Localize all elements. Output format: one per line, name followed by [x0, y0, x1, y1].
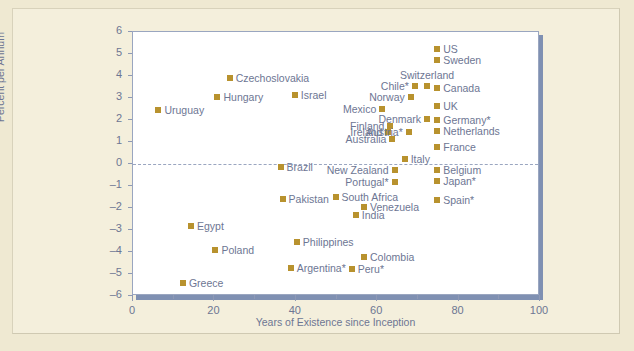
data-point-marker: [434, 144, 440, 150]
x-tick-mark: [295, 295, 296, 301]
x-tick-mark: [173, 295, 174, 299]
data-point-label: Mexico: [343, 104, 376, 115]
y-tick-mark: [128, 53, 132, 54]
y-tick-mark: [128, 273, 132, 274]
y-tick-label: –3: [96, 222, 122, 234]
y-tick-mark: [128, 229, 132, 230]
data-point-marker: [402, 156, 408, 162]
y-tick-mark: [128, 185, 132, 186]
x-tick-label: 0: [112, 304, 152, 316]
x-tick-mark: [539, 295, 540, 301]
x-tick-mark: [213, 295, 214, 301]
y-tick-mark: [128, 97, 132, 98]
data-point-label: Greece: [189, 277, 223, 288]
data-point-label: Philippines: [303, 237, 354, 248]
x-tick-label: 60: [356, 304, 396, 316]
data-point-label: Italy: [411, 153, 430, 164]
data-point-label: India: [362, 209, 385, 220]
data-point-label: Czechoslovakia: [236, 73, 310, 84]
x-axis-label: Years of Existence since Inception: [132, 316, 539, 328]
data-point-label: Denmark: [378, 114, 421, 125]
y-tick-label: 6: [96, 24, 122, 36]
data-point-marker: [406, 129, 412, 135]
y-tick-label: –2: [96, 200, 122, 212]
y-tick-label: 0: [96, 156, 122, 168]
y-tick-mark: [128, 251, 132, 252]
data-point-marker: [434, 85, 440, 91]
data-point-marker: [227, 75, 233, 81]
data-point-marker: [434, 197, 440, 203]
data-point-label: Portugal*: [345, 176, 388, 187]
data-point-label: Hungary: [223, 92, 263, 103]
y-tick-label: –4: [96, 244, 122, 256]
data-point-label: New Zealand: [327, 164, 389, 175]
data-point-label: Brazil: [287, 162, 313, 173]
data-point-label: Israel: [301, 89, 327, 100]
y-tick-mark: [128, 75, 132, 76]
data-point-marker: [294, 239, 300, 245]
x-tick-label: 100: [519, 304, 559, 316]
data-point-marker: [434, 167, 440, 173]
data-point-label: Poland: [221, 244, 254, 255]
y-axis-label: Percent per Annum: [0, 32, 6, 122]
data-point-marker: [434, 103, 440, 109]
data-point-marker: [408, 94, 414, 100]
data-point-marker: [288, 265, 294, 271]
data-point-marker: [278, 164, 284, 170]
data-point-label: Canada: [443, 83, 480, 94]
y-tick-label: –1: [96, 178, 122, 190]
data-point-marker: [333, 194, 339, 200]
data-point-label: Sweden: [443, 54, 481, 65]
data-point-marker: [180, 280, 186, 286]
x-tick-mark: [376, 295, 377, 301]
data-point-marker: [280, 196, 286, 202]
data-point-marker: [353, 212, 359, 218]
data-point-marker: [292, 92, 298, 98]
data-point-marker: [434, 46, 440, 52]
y-tick-label: 1: [96, 134, 122, 146]
x-tick-mark: [498, 295, 499, 299]
data-point-marker: [434, 178, 440, 184]
y-tick-label: –5: [96, 266, 122, 278]
data-point-label: UK: [443, 100, 458, 111]
data-point-marker: [379, 106, 385, 112]
data-point-label: Uruguay: [164, 105, 204, 116]
data-point-label: Colombia: [370, 251, 414, 262]
x-tick-mark: [458, 295, 459, 301]
data-point-label: Netherlands: [443, 126, 500, 137]
y-tick-label: –6: [96, 288, 122, 300]
data-point-marker: [424, 83, 430, 89]
y-tick-mark: [128, 207, 132, 208]
data-point-label: Egypt: [197, 220, 224, 231]
y-tick-mark: [128, 31, 132, 32]
data-point-marker: [361, 254, 367, 260]
data-point-marker: [212, 247, 218, 253]
x-tick-label: 80: [438, 304, 478, 316]
x-tick-label: 40: [275, 304, 315, 316]
data-point-marker: [434, 117, 440, 123]
data-point-label: France: [443, 141, 476, 152]
data-point-marker: [434, 57, 440, 63]
x-tick-label: 20: [193, 304, 233, 316]
data-point-marker: [389, 136, 395, 142]
data-point-label: Spain*: [443, 195, 474, 206]
data-point-marker: [155, 107, 161, 113]
y-tick-label: 5: [96, 46, 122, 58]
y-tick-label: 2: [96, 112, 122, 124]
x-tick-mark: [417, 295, 418, 299]
data-point-marker: [214, 94, 220, 100]
y-tick-mark: [128, 163, 132, 164]
data-point-marker: [349, 266, 355, 272]
data-point-label: Norway: [369, 92, 405, 103]
data-point-label: Japan*: [443, 175, 476, 186]
data-point-marker: [392, 167, 398, 173]
y-tick-label: 4: [96, 68, 122, 80]
y-tick-mark: [128, 141, 132, 142]
data-point-marker: [424, 116, 430, 122]
figure-root: Percent per Annum Years of Existence sin…: [0, 0, 634, 351]
data-point-marker: [392, 179, 398, 185]
data-point-marker: [434, 128, 440, 134]
data-point-label: Argentina*: [297, 262, 346, 273]
y-tick-mark: [128, 119, 132, 120]
data-point-label: Australia: [346, 133, 387, 144]
